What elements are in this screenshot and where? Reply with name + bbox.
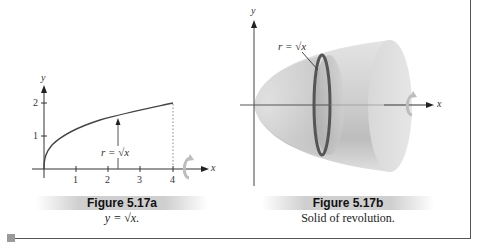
figure-b-title: Figure 5.17b (262, 196, 434, 210)
figure-b-y-axis-label: y (251, 6, 255, 16)
figure-b-radius-label: r = √x (278, 40, 306, 52)
figure-b-caption-bar: Figure 5.17b (262, 196, 434, 210)
figure-b-subtitle: Solid of revolution. (262, 211, 434, 225)
figure-b-x-axis-label: x (437, 99, 441, 109)
